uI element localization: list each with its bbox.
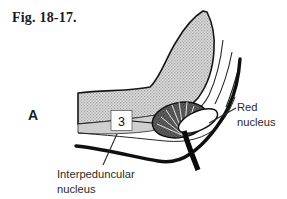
- figure-panel: Fig. 18-17. A: [0, 0, 287, 199]
- red-nucleus-label-line1: Red: [237, 101, 258, 113]
- interpeduncular-label-line2: nucleus: [57, 183, 96, 195]
- midbrain-section-diagram: 3 Red nucleus Interpeduncular nucleus: [0, 0, 287, 199]
- red-nucleus-label-line2: nucleus: [237, 116, 276, 128]
- callout-3-number: 3: [118, 115, 125, 129]
- interpeduncular-label-line1: Interpeduncular: [57, 168, 135, 180]
- tegmentum-contour-line-2: [215, 52, 232, 104]
